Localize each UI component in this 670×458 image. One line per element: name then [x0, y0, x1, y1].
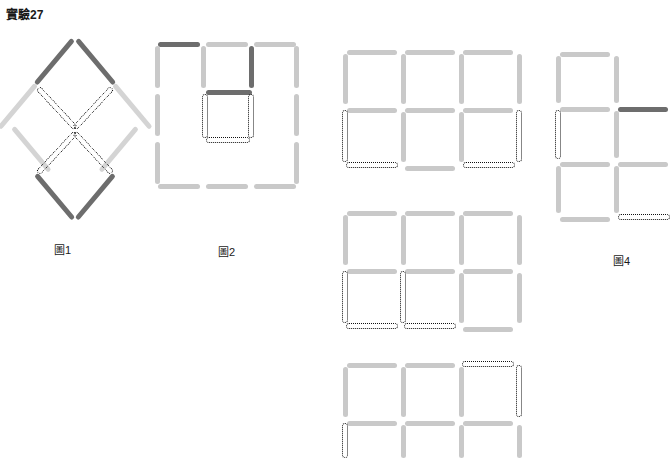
stick-solid-light [614, 166, 619, 213]
stick-dotted [72, 86, 114, 130]
figure-1 [6, 30, 141, 230]
figure-1-label: 圖1 [54, 241, 71, 257]
stick-solid-light [401, 367, 406, 417]
stick-solid-light [401, 112, 406, 162]
stick-solid-light [254, 184, 296, 189]
stick-dotted [342, 271, 348, 323]
stick-solid-light [614, 111, 619, 158]
stick-solid-light [347, 269, 397, 274]
stick-solid-light [614, 56, 619, 103]
figure-3 [343, 50, 533, 180]
stick-solid-light [463, 421, 513, 426]
stick-solid-light [343, 367, 348, 417]
figure-2-label: 圖2 [218, 243, 235, 259]
stick-solid-light [405, 269, 455, 274]
figure-4 [556, 52, 651, 227]
stick-solid-light [0, 83, 38, 130]
stick-solid-light [463, 327, 513, 332]
stick-solid-light [155, 46, 160, 88]
figure-2 [155, 42, 305, 222]
stick-solid-light [347, 211, 397, 216]
stick-solid-light [206, 42, 248, 47]
stick-solid-light [201, 46, 206, 88]
stick-solid-light [459, 112, 464, 162]
figure-4-label: 圖4 [613, 252, 630, 268]
stick-solid-light [405, 363, 455, 368]
stick-solid-light [459, 273, 464, 323]
figure-6 [343, 363, 533, 458]
stick-solid-light [560, 162, 610, 167]
stick-solid-light [517, 273, 522, 323]
stick-solid-light [405, 108, 455, 113]
stick-dotted [72, 131, 114, 175]
stick-solid-light [405, 211, 455, 216]
stick-solid-light [401, 425, 406, 458]
stick-solid-light [463, 211, 513, 216]
stick-solid-light [405, 166, 455, 171]
stick-dotted [516, 110, 522, 162]
stick-solid-light [517, 215, 522, 265]
stick-solid-light [405, 50, 455, 55]
stick-solid-dark [618, 107, 668, 112]
stick-solid-dark [34, 173, 75, 221]
stick-solid-light [463, 269, 513, 274]
stick-solid-light [155, 142, 160, 184]
stick-solid-light [206, 184, 248, 189]
stick-solid-light [401, 215, 406, 265]
stick-solid-light [556, 56, 561, 103]
stick-solid-light [463, 108, 513, 113]
stick-solid-light [347, 108, 397, 113]
page-title: 實驗27 [6, 5, 43, 22]
stick-solid-light [347, 50, 397, 55]
stick-dotted [346, 323, 398, 329]
stick-solid-light [560, 52, 610, 57]
stick-solid-light [560, 217, 610, 222]
stick-solid-light [556, 166, 561, 213]
stick-solid-dark [158, 42, 200, 47]
stick-solid-light [294, 94, 299, 136]
stick-dotted [36, 131, 78, 175]
stick-solid-light [560, 107, 610, 112]
stick-solid-light [347, 363, 397, 368]
stick-solid-dark [34, 38, 75, 86]
stick-dotted [463, 162, 515, 168]
stick-solid-light [517, 54, 522, 104]
stick-solid-dark [75, 38, 116, 86]
stick-dotted [342, 110, 348, 162]
stick-dotted [462, 361, 514, 367]
stick-dotted [202, 94, 208, 138]
stick-solid-light [618, 162, 668, 167]
stick-dotted [618, 214, 670, 220]
stick-dotted [206, 137, 250, 143]
stick-solid-light [343, 215, 348, 265]
stick-solid-light [155, 94, 160, 136]
stick-dotted [346, 162, 398, 168]
stick-dotted [400, 271, 406, 323]
stick-solid-light [294, 46, 299, 88]
stick-solid-light [401, 54, 406, 104]
stick-solid-dark [75, 173, 116, 221]
stick-solid-light [463, 50, 513, 55]
stick-solid-light [343, 54, 348, 104]
stick-dotted [404, 323, 456, 329]
stick-dotted [342, 423, 348, 458]
stick-solid-light [294, 142, 299, 184]
stick-solid-dark [249, 46, 254, 88]
stick-solid-light [459, 425, 464, 458]
stick-solid-light [459, 54, 464, 104]
stick-solid-dark [206, 90, 252, 95]
stick-solid-light [347, 421, 397, 426]
stick-solid-light [112, 83, 152, 130]
stick-dotted [248, 94, 254, 138]
stick-solid-light [158, 184, 200, 189]
stick-solid-light [405, 421, 455, 426]
stick-dotted [555, 110, 561, 159]
stick-solid-light [459, 367, 464, 417]
stick-dotted [36, 86, 78, 130]
stick-solid-light [517, 425, 522, 458]
stick-solid-light [459, 215, 464, 265]
stick-dotted [516, 365, 522, 417]
stick-solid-light [254, 42, 296, 47]
figure-5 [343, 211, 533, 336]
